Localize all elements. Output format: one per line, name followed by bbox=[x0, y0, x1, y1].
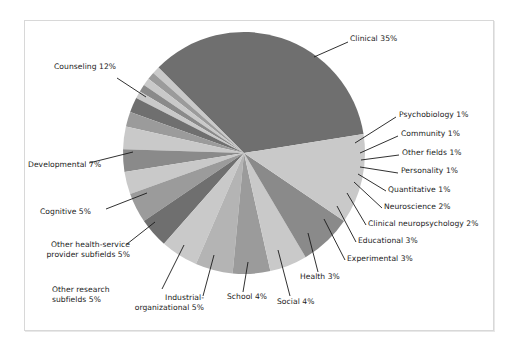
leader-line-other-fields bbox=[361, 155, 399, 160]
pie-label-other-fields: Other fields 1% bbox=[402, 148, 462, 158]
pie-label-other-research-subfields-line2: subfields 5% bbox=[52, 295, 101, 304]
pie-label-clinical-neuropsychology: Clinical neuropsychology 2% bbox=[368, 219, 478, 229]
pie-label-experimental: Experimental 3% bbox=[347, 254, 413, 264]
leader-line-other-research bbox=[162, 245, 184, 289]
pie-chart: Clinical 35% Psychobiology 1% Community … bbox=[0, 0, 514, 354]
pie-label-social: Social 4% bbox=[277, 297, 314, 307]
leader-line-community bbox=[360, 136, 398, 153]
pie-label-health: Health 3% bbox=[300, 272, 340, 282]
pie-slices bbox=[123, 32, 365, 274]
pie-label-personality: Personality 1% bbox=[401, 166, 458, 176]
screenshot-root: Clinical 35% Psychobiology 1% Community … bbox=[0, 0, 514, 354]
pie-label-industrial-organizational: Industrial- organizational 5% bbox=[120, 293, 204, 312]
pie-label-other-health-service-provider-subfields: Other health-service provider subfields … bbox=[42, 240, 130, 259]
pie-label-industrial-organizational-line2: organizational 5% bbox=[135, 303, 204, 312]
leader-line-personality bbox=[360, 167, 398, 173]
pie-label-developmental: Developmental 7% bbox=[28, 160, 101, 170]
pie-label-psychobiology: Psychobiology 1% bbox=[399, 110, 468, 120]
leader-line-clinical bbox=[314, 42, 348, 57]
pie-label-counseling: Counseling 12% bbox=[54, 62, 116, 72]
pie-label-other-hsp-line2: provider subfields 5% bbox=[47, 250, 131, 259]
pie-label-educational: Educational 3% bbox=[358, 236, 418, 246]
leader-line-quantitative bbox=[358, 174, 386, 191]
pie-label-quantitative: Quantitative 1% bbox=[388, 185, 450, 195]
pie-label-school: School 4% bbox=[227, 292, 267, 302]
pie-label-clinical: Clinical 35% bbox=[350, 34, 397, 44]
pie-label-other-research-subfields-line1: Other research bbox=[52, 285, 110, 294]
pie-label-industrial-organizational-line1: Industrial- bbox=[165, 293, 204, 302]
pie-label-neuroscience: Neuroscience 2% bbox=[384, 202, 451, 212]
leader-line-other-hsp bbox=[127, 222, 155, 244]
pie-label-other-hsp-line1: Other health-service bbox=[51, 240, 130, 249]
leader-line-counseling bbox=[117, 78, 146, 97]
pie-label-cognitive: Cognitive 5% bbox=[40, 207, 91, 217]
pie-label-community: Community 1% bbox=[401, 129, 460, 139]
pie-label-other-research-subfields: Other research subfields 5% bbox=[52, 285, 120, 304]
